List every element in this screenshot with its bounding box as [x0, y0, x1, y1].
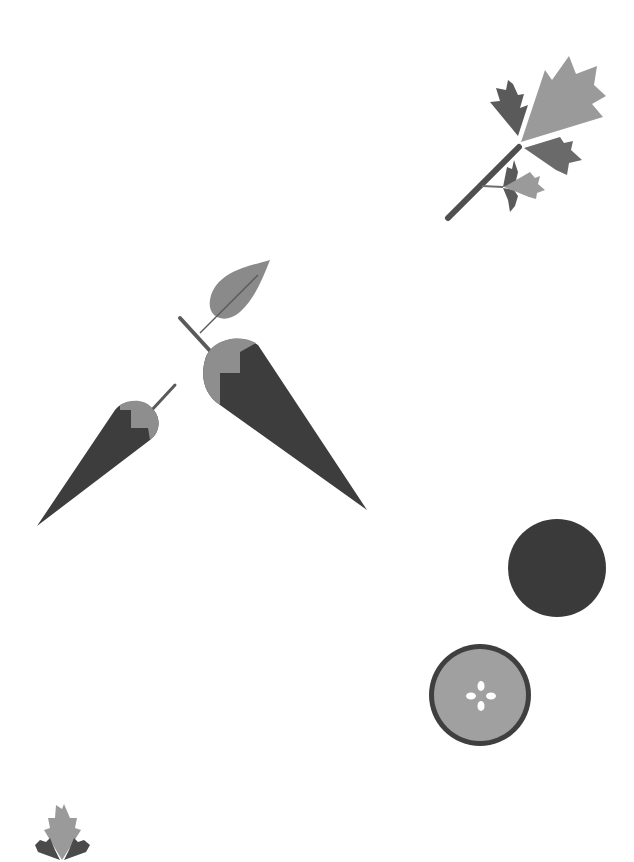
carrot-small: [37, 385, 175, 526]
carrot-leaf: [180, 260, 270, 353]
illustration-svg: [0, 0, 634, 862]
carrot-slice-dark: [508, 519, 606, 617]
carrot-large: [203, 338, 367, 510]
illustration-canvas: [0, 0, 634, 862]
carrot-slice-cross-section: [429, 644, 531, 746]
parsley-sprig-small: [35, 804, 90, 860]
parsley-sprig-large: [448, 56, 606, 218]
